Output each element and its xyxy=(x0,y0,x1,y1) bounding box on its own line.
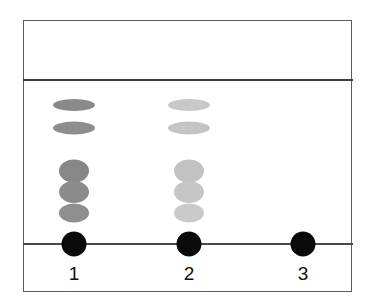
chromatography-figure: 123 xyxy=(0,0,379,306)
band-2d xyxy=(174,181,204,203)
lane-label-3: 3 xyxy=(298,264,309,283)
origin-dot-lane-2 xyxy=(177,232,202,257)
band-2a xyxy=(168,99,210,111)
band-1b xyxy=(53,122,95,135)
band-1c xyxy=(59,160,89,183)
origin-dot-lane-1 xyxy=(62,232,87,257)
band-1a xyxy=(53,99,95,111)
band-2c xyxy=(174,160,204,183)
solvent-front-line xyxy=(23,79,353,81)
origin-dot-lane-3 xyxy=(291,232,316,257)
lane-label-1: 1 xyxy=(69,264,80,283)
band-1e xyxy=(59,204,89,223)
band-1d xyxy=(59,181,89,203)
band-2e xyxy=(174,204,204,223)
band-2b xyxy=(168,122,210,135)
lane-label-2: 2 xyxy=(184,264,195,283)
